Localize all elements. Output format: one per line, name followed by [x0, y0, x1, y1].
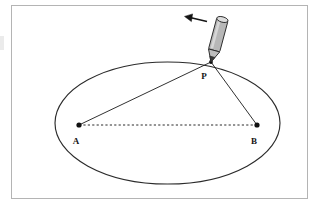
- label-point-a: A: [73, 136, 80, 146]
- focus-point-b: [254, 122, 259, 127]
- focus-point-a: [76, 122, 81, 127]
- label-point-p: P: [201, 71, 207, 81]
- page-edge-artifact: [0, 36, 4, 50]
- label-point-b: B: [251, 136, 257, 146]
- figure-canvas: A B P: [0, 0, 319, 210]
- figure-frame: [12, 6, 308, 199]
- ellipse-construction-diagram: A B P: [0, 0, 319, 210]
